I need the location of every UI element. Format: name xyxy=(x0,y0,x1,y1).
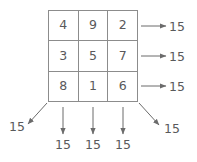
magic-square-grid: 4 9 2 3 5 7 8 1 6 xyxy=(48,10,138,102)
col-sum-label-0: 15 xyxy=(55,139,71,152)
diagonal-sum-label-right: 15 xyxy=(164,123,180,136)
grid-cell-r1c1: 5 xyxy=(79,41,109,71)
magic-square-diagram: 4 9 2 3 5 7 8 1 6 15 15 15 15 15 15 15 1… xyxy=(0,0,197,162)
grid-cell-r2c1: 1 xyxy=(79,72,109,102)
grid-cell-r0c2: 2 xyxy=(108,11,138,41)
diag-arrow-right xyxy=(139,103,159,125)
grid-cell-r1c0: 3 xyxy=(49,41,79,71)
grid-cell-r1c2: 7 xyxy=(108,41,138,71)
diagonal-sum-label-left: 15 xyxy=(9,121,25,134)
row-sum-label-0: 15 xyxy=(169,21,185,34)
diag-arrow-left xyxy=(28,103,47,124)
grid-cell-r0c0: 4 xyxy=(49,11,79,41)
grid-cell-r2c0: 8 xyxy=(49,72,79,102)
grid-cell-r0c1: 9 xyxy=(79,11,109,41)
grid-cell-r2c2: 6 xyxy=(108,72,138,102)
col-sum-label-1: 15 xyxy=(85,139,101,152)
col-sum-label-2: 15 xyxy=(115,139,131,152)
row-sum-label-1: 15 xyxy=(169,51,185,64)
row-sum-label-2: 15 xyxy=(169,81,185,94)
